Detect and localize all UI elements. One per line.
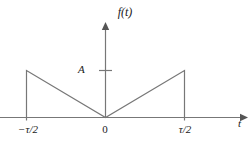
- y-axis: [102, 22, 109, 118]
- y-axis-label-text: f(t): [118, 5, 133, 19]
- x-axis: [0, 114, 248, 121]
- x-axis-label: t: [238, 118, 241, 129]
- y-axis-arrowhead: [102, 22, 109, 30]
- origin-label: 0: [95, 124, 115, 135]
- waveform-figure: f(t) A 0 −τ/2 τ/2 t: [0, 0, 250, 144]
- left-tick-label: −τ/2: [4, 124, 52, 135]
- amplitude-label: A: [78, 64, 85, 75]
- right-tick-label: τ/2: [165, 124, 205, 135]
- x-axis-arrowhead: [240, 114, 248, 121]
- y-axis-label: f(t): [0, 6, 250, 18]
